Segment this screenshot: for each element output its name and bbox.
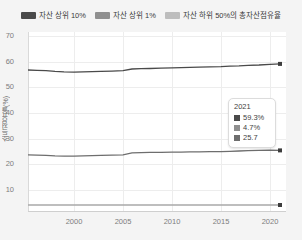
x-tick-label: 2015 — [201, 217, 241, 226]
tooltip-value: 59.3% — [243, 113, 264, 123]
series-line-top10 — [28, 64, 280, 72]
y-tick-label: 50 — [0, 83, 14, 91]
y-tick-label: 60 — [0, 58, 14, 66]
legend-swatch-icon — [21, 12, 36, 19]
endpoint-marker-top1 — [278, 203, 282, 207]
endpoint-marker-top10 — [278, 62, 282, 66]
legend-label: 자산 상위 10% — [39, 11, 86, 20]
data-tooltip[interactable]: 2021 59.3% 4.7% 25.7 — [228, 98, 276, 148]
legend-item-top1[interactable]: 자산 상위 1% — [95, 11, 156, 20]
y-tick-label: 40 — [0, 109, 14, 117]
y-tick-label: 70 — [0, 32, 14, 40]
endpoint-marker-bottom50 — [278, 148, 282, 152]
legend-swatch-icon — [165, 12, 180, 19]
tooltip-row: 25.7 — [234, 133, 271, 143]
tooltip-swatch-icon — [234, 135, 240, 141]
tooltip-title: 2021 — [234, 102, 271, 112]
y-tick-label: 20 — [0, 160, 14, 168]
x-tick-label: 2020 — [250, 217, 290, 226]
legend-swatch-icon — [95, 12, 110, 19]
tooltip-value: 4.7% — [243, 123, 260, 133]
chart-legend: 자산 상위 10% 자산 상위 1% 자산 하위 50%의 총자산점유율 — [0, 11, 302, 20]
y-tick-label: 30 — [0, 135, 14, 143]
tooltip-swatch-icon — [234, 125, 240, 131]
chart-page: 자산 상위 10% 자산 상위 1% 자산 하위 50%의 총자산점유율 소득점… — [0, 0, 302, 240]
tooltip-row: 4.7% — [234, 123, 271, 133]
legend-label: 자산 하위 50%의 총자산점유율 — [183, 11, 281, 20]
series-line-bottom50 — [28, 150, 280, 156]
x-tick-label: 2005 — [103, 217, 143, 226]
legend-label: 자산 상위 1% — [113, 11, 156, 20]
legend-item-top10[interactable]: 자산 상위 10% — [21, 11, 86, 20]
legend-item-bottom50[interactable]: 자산 하위 50%의 총자산점유율 — [165, 11, 281, 20]
x-tick-label: 2010 — [152, 217, 192, 226]
tooltip-value: 25.7 — [243, 133, 258, 143]
y-tick-label: 10 — [0, 186, 14, 194]
x-tick-label: 2000 — [54, 217, 94, 226]
tooltip-swatch-icon — [234, 115, 240, 121]
tooltip-row: 59.3% — [234, 113, 271, 123]
